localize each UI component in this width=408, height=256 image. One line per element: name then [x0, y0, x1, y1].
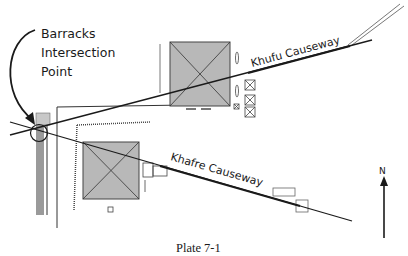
intersection-label-line3: Point — [41, 64, 72, 79]
intersection-label-line2: Intersection — [41, 45, 115, 60]
wavy-wall — [77, 122, 150, 125]
north-label: N — [379, 166, 386, 176]
barracks-galleries — [36, 113, 50, 215]
khufu-pyramid — [160, 42, 230, 110]
intersection-label-line1: Barracks — [41, 26, 96, 41]
plate-caption: Plate 7-1 — [176, 241, 221, 255]
curved-arrow — [10, 30, 35, 120]
khufu-causeway-extension — [348, 4, 404, 45]
site-plan-diagram: Barracks Intersection Point Khufu Causew… — [0, 0, 408, 256]
khafre-pyramid — [83, 142, 139, 212]
north-arrow-icon — [380, 176, 388, 238]
